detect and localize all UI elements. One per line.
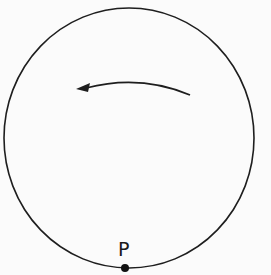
rotation-arrow-icon: [86, 82, 190, 95]
arrowhead-icon: [76, 83, 90, 92]
point-p-label: P: [118, 238, 129, 260]
circle-path: [4, 8, 254, 268]
diagram-canvas: P: [0, 0, 271, 275]
point-p-dot: [121, 264, 129, 272]
diagram-svg: P: [0, 0, 271, 275]
